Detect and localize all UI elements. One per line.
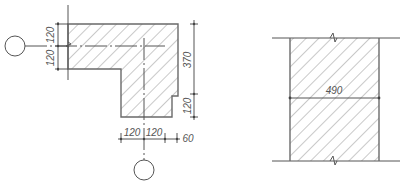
dimension-bottom: 120 120 60 (118, 127, 194, 144)
dim-right-120: 120 (182, 97, 193, 114)
drawing-canvas: 120 120 370 120 120 120 60 490 (0, 0, 404, 186)
dimension-right: 370 120 (182, 20, 198, 120)
dimension-left: 120 120 (45, 22, 68, 71)
technical-drawing: 120 120 370 120 120 120 60 490 (0, 0, 404, 186)
l-wall-section (60, 20, 190, 120)
dim-wall-width: 490 (326, 85, 343, 96)
left-axis-circle (5, 36, 25, 56)
dim-left-bottom: 120 (45, 49, 56, 66)
straight-wall-section: 490 (272, 33, 400, 165)
dim-right-370: 370 (182, 51, 193, 68)
dim-bottom-3: 60 (182, 133, 194, 144)
dim-bottom-1: 120 (124, 127, 141, 138)
dim-left-top: 120 (45, 26, 56, 43)
dim-bottom-2: 120 (146, 127, 163, 138)
bottom-axis-circle (134, 160, 154, 180)
